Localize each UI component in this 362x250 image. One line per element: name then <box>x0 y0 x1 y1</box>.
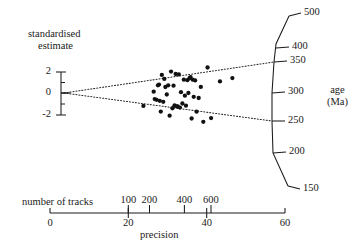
y-axis-title-line1: standardised <box>28 28 81 39</box>
precision-axis-caption: precision <box>140 229 179 241</box>
data-point <box>162 77 166 81</box>
data-point <box>152 90 156 94</box>
data-point <box>209 116 213 120</box>
y-axis-title: standardised estimate <box>28 28 81 52</box>
data-point <box>167 114 171 118</box>
data-point <box>186 91 190 95</box>
z-tick-label: -2 <box>33 108 51 120</box>
precision-tick-label: 60 <box>270 217 300 229</box>
data-point <box>230 76 234 80</box>
tracks-tick-label: 600 <box>194 194 228 206</box>
age-tick-label: 500 <box>304 6 320 18</box>
data-point <box>194 109 198 113</box>
data-point <box>197 96 201 100</box>
data-point <box>159 109 163 113</box>
data-point <box>192 95 196 99</box>
data-point <box>161 100 165 104</box>
data-point <box>218 79 222 83</box>
age-axis-title-line1: age <box>327 84 348 96</box>
radial-plot-figure: standardised estimate age (Ma) number of… <box>0 0 362 250</box>
data-point <box>201 120 205 124</box>
age-axis-title-line2: (Ma) <box>327 96 348 108</box>
data-point <box>205 65 209 69</box>
age-axis-title: age (Ma) <box>327 84 348 108</box>
age-tick-label: 250 <box>288 114 304 126</box>
data-point <box>166 83 170 87</box>
y-axis-title-line2: estimate <box>28 40 81 52</box>
scatter-points <box>141 65 234 124</box>
age-tick-label: 350 <box>290 54 306 66</box>
data-point <box>189 116 193 120</box>
age-tick-label: 200 <box>289 145 305 157</box>
data-point <box>184 103 188 107</box>
data-point <box>177 72 181 76</box>
precision-tick-label: 40 <box>192 217 222 229</box>
data-point <box>193 78 197 82</box>
z-tick-label: 2 <box>33 65 51 77</box>
z-tick-label: 0 <box>33 86 51 98</box>
data-point <box>160 73 164 77</box>
data-point <box>169 69 173 73</box>
data-point <box>183 94 187 98</box>
data-point <box>178 105 182 109</box>
confidence-band-lines <box>64 62 274 121</box>
data-point <box>141 104 145 108</box>
data-point <box>179 90 183 94</box>
tracks-ticks <box>128 205 211 213</box>
age-tick-label: 300 <box>288 85 304 97</box>
tracks-tick-label: 200 <box>132 194 166 206</box>
data-point <box>157 82 161 86</box>
age-tick-label: 150 <box>303 182 319 194</box>
data-point <box>171 84 175 88</box>
precision-tick-label: 20 <box>113 217 143 229</box>
tracks-axis-caption: number of tracks <box>22 196 93 208</box>
data-point <box>165 92 169 96</box>
data-point <box>199 85 203 89</box>
precision-tick-label: 0 <box>35 217 65 229</box>
age-tick-label: 400 <box>292 40 308 52</box>
